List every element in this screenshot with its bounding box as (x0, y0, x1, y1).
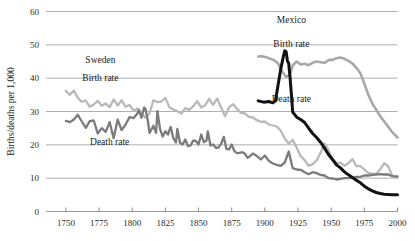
x-tick-label: 1950 (322, 218, 341, 228)
annotation-sweden-birth: Birth rate (82, 73, 118, 83)
x-tick-label: 1900 (256, 218, 275, 228)
y-axis-title: Births/deaths per 1,000 (6, 67, 16, 156)
x-tick-label: 1975 (355, 218, 374, 228)
annotation-mexico-birth: Birth rate (273, 39, 309, 49)
x-tick-label: 1925 (289, 218, 308, 228)
y-tick-label: 50 (30, 40, 40, 50)
x-axis (46, 208, 398, 212)
x-tick-label: 1825 (156, 218, 175, 228)
chart-canvas: 0102030405060175017751800182518501875190… (0, 0, 415, 241)
y-tick-label: 30 (30, 107, 40, 117)
x-tick-label: 2000 (389, 218, 408, 228)
annotation-mexico-death: Death rate (272, 94, 311, 104)
gridlines (46, 12, 398, 179)
y-tick-label: 10 (30, 173, 40, 183)
x-tick-label: 1875 (223, 218, 242, 228)
x-tick-label: 1750 (57, 218, 76, 228)
y-tick-label: 20 (30, 140, 40, 150)
y-tick-label: 0 (35, 207, 40, 217)
x-tick-label: 1800 (123, 218, 142, 228)
demographic-transition-chart: 0102030405060175017751800182518501875190… (0, 0, 415, 241)
y-tick-label: 40 (30, 73, 40, 83)
annotation-sweden-group: Sweden (85, 55, 115, 65)
x-tick-label: 1850 (190, 218, 209, 228)
y-tick-label: 60 (30, 7, 40, 17)
annotation-sweden-death: Death rate (90, 137, 129, 147)
x-axis-tick-labels: 1750177518001825185018751900192519501975… (57, 218, 407, 228)
annotation-mexico-group: Mexico (277, 15, 306, 25)
y-axis-tick-labels: 0102030405060 (30, 7, 40, 217)
x-tick-label: 1775 (90, 218, 109, 228)
